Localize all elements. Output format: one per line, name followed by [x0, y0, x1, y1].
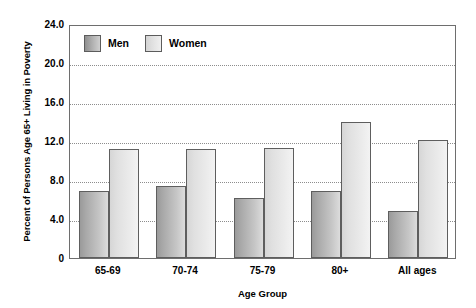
x-tick-label: 70-74	[145, 266, 225, 276]
bar-groups	[70, 26, 455, 258]
bar-group	[311, 26, 371, 258]
bar-women-all-ages	[418, 140, 448, 258]
bar-group	[156, 26, 216, 258]
bar-men-75-79	[234, 198, 264, 258]
x-tick-label: 75-79	[223, 266, 303, 276]
bar-women-65-69	[109, 149, 139, 258]
bar-men-all-ages	[388, 211, 418, 258]
bar-group	[79, 26, 139, 258]
y-axis-tick-labels: 24.0 20.0 16.0 12.0 8.0 4.0 0	[14, 0, 64, 308]
bar-men-65-69	[79, 191, 109, 258]
plot-area: Men Women	[69, 25, 456, 259]
bar-women-70-74	[186, 149, 216, 258]
x-axis-title: Age Group	[69, 288, 456, 299]
bar-group	[388, 26, 448, 258]
y-tick-label: 8.0	[20, 176, 64, 186]
y-tick-label: 12.0	[20, 137, 64, 147]
x-tick-label: 65-69	[68, 266, 148, 276]
bar-group	[234, 26, 294, 258]
y-tick-label: 20.0	[20, 59, 64, 69]
chart-figure: Percent of Persons Age 65+ Living in Pov…	[0, 0, 476, 308]
x-tick-label: 80+	[300, 266, 380, 276]
bar-women-80-	[341, 122, 371, 259]
bar-women-75-79	[264, 148, 294, 258]
y-tick-label: 4.0	[20, 215, 64, 225]
y-tick-label: 0	[20, 254, 64, 264]
y-tick-label: 16.0	[20, 98, 64, 108]
y-tick-label: 24.0	[20, 20, 64, 30]
bar-men-80-	[311, 191, 341, 258]
bar-men-70-74	[156, 186, 186, 258]
x-tick-label: All ages	[377, 266, 457, 276]
